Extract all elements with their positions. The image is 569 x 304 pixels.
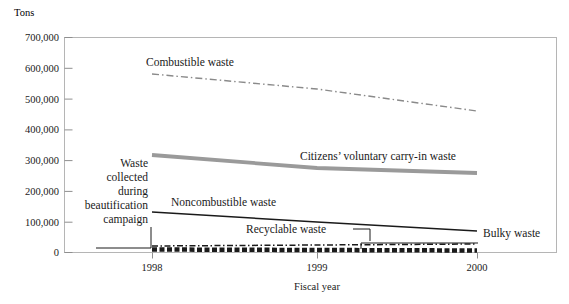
series-label-noncombustible-waste: Noncombustible waste (171, 196, 276, 208)
y-tick-label: 0 (54, 247, 59, 258)
annotation-line-3: during (118, 185, 148, 198)
y-tick-label: 400,000 (25, 124, 59, 135)
annotation-line-1: Waste (120, 157, 148, 169)
annotation-line-4: beautification (85, 199, 148, 211)
x-axis-title: Fiscal year (294, 281, 340, 292)
y-tick-label: 700,000 (25, 32, 59, 43)
waste-volume-line-chart: Tons 700,000 600,000 500,000 400,000 300… (0, 0, 569, 304)
y-tick-label: 200,000 (25, 186, 59, 197)
series-label-bulky-waste: Bulky waste (483, 227, 540, 240)
y-tick-label: 500,000 (25, 94, 59, 105)
y-axis-unit-label: Tons (14, 7, 34, 18)
x-tick-label: 1999 (307, 262, 328, 273)
annotation-line-5: campaign (103, 213, 148, 226)
y-tick-label: 600,000 (25, 63, 59, 74)
y-tick-label: 300,000 (25, 155, 59, 166)
x-tick-label: 1998 (142, 262, 163, 273)
series-label-recyclable-waste: Recyclable waste (246, 223, 326, 236)
series-label-combustible-waste: Combustible waste (146, 56, 234, 68)
x-tick-label: 2000 (467, 262, 488, 273)
y-tick-label: 100,000 (25, 217, 59, 228)
chart-figure: Tons 700,000 600,000 500,000 400,000 300… (0, 0, 569, 304)
chart-background (0, 0, 569, 304)
series-label-citizens-voluntary-carry-in-waste: Citizens’ voluntary carry-in waste (300, 150, 456, 163)
annotation-line-2: collected (106, 171, 148, 183)
